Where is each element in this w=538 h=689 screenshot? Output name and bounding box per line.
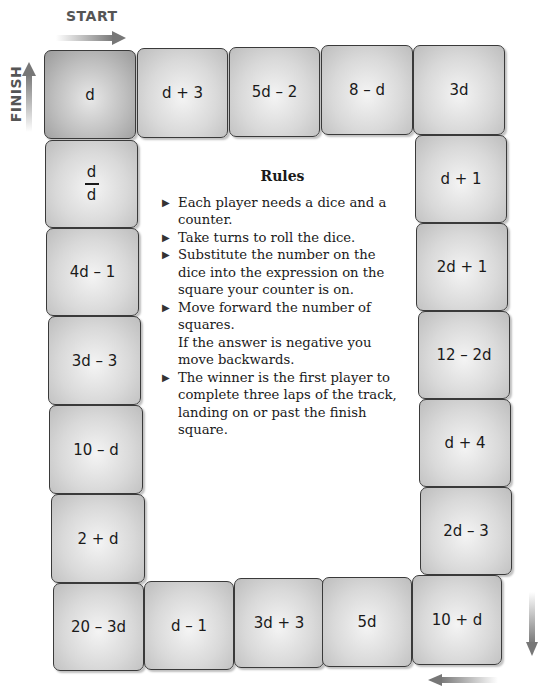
track-square: 8 – d <box>321 45 413 135</box>
square-expression: d <box>85 86 95 104</box>
square-expression: 12 – 2d <box>436 346 491 364</box>
square-expression: d – 1 <box>171 617 207 635</box>
square-expression: 10 + d <box>432 611 483 629</box>
track-square: 4d – 1 <box>46 228 139 316</box>
rule-text: Each player needs a dice and a counter. <box>178 195 386 228</box>
rules-title: Rules <box>160 168 405 186</box>
track-square: 20 – 3d <box>53 583 144 671</box>
square-expression: d + 4 <box>444 434 485 452</box>
fraction-denominator: d <box>87 188 97 203</box>
track-square: 10 + d <box>412 575 502 665</box>
start-label: START <box>66 8 118 24</box>
square-expression: 3d <box>449 81 468 99</box>
track-square: d + 1 <box>415 135 507 223</box>
track-square: d – 1 <box>144 581 234 670</box>
rules-panel: Rules ▶Each player needs a dice and a co… <box>160 168 405 439</box>
down-arrow-icon <box>526 592 538 656</box>
track-square: d + 3 <box>137 48 228 138</box>
bullet-icon: ▶ <box>162 194 170 212</box>
square-expression: d + 3 <box>162 84 203 102</box>
rule-item: ▶Substitute the number on the dice into … <box>160 246 405 299</box>
rule-item: ▶Move forward the number of squares. <box>160 299 405 334</box>
square-expression: 2d + 1 <box>437 258 488 276</box>
rule-item: ▶Take turns to roll the dice. <box>160 229 405 247</box>
finish-arrow-icon <box>22 62 36 132</box>
track-square: 2d + 1 <box>416 223 508 311</box>
track-square: 2d – 3 <box>420 487 512 575</box>
square-expression: 3d – 3 <box>72 352 118 370</box>
track-square: 5d <box>322 577 412 667</box>
bullet-icon: ▶ <box>162 299 170 317</box>
rule-text: Substitute the number on the dice into t… <box>178 247 384 297</box>
track-square: 12 – 2d <box>418 311 510 399</box>
square-expression: 2 + d <box>77 530 118 548</box>
track-square: d + 4 <box>419 399 511 487</box>
track-square: 10 – d <box>49 405 143 494</box>
track-square: 5d – 2 <box>229 47 320 137</box>
rule-text: The winner is the first player to comple… <box>178 370 397 438</box>
track-square-finish: d <box>44 50 136 139</box>
rule-item: ▶Each player needs a dice and a counter. <box>160 194 405 229</box>
rules-list: ▶Each player needs a dice and a counter.… <box>160 194 405 439</box>
fraction-numerator: d <box>87 165 97 180</box>
left-arrow-icon <box>428 674 498 686</box>
fraction-expression: d d <box>85 165 99 202</box>
rule-text: Take turns to roll the dice. <box>178 230 355 245</box>
square-expression: 2d – 3 <box>443 522 489 540</box>
track-square: d d <box>45 140 138 228</box>
bullet-icon: ▶ <box>162 246 170 264</box>
rule-note: If the answer is negative you move backw… <box>160 334 405 369</box>
square-expression: 10 – d <box>73 441 119 459</box>
bullet-icon: ▶ <box>162 229 170 247</box>
fraction-bar <box>85 183 99 184</box>
square-expression: 3d + 3 <box>254 614 305 632</box>
track-square: 3d + 3 <box>234 578 324 668</box>
square-expression: d + 1 <box>440 170 481 188</box>
square-expression: 8 – d <box>349 81 385 99</box>
square-expression: 20 – 3d <box>71 618 126 636</box>
square-expression: 5d <box>357 613 376 631</box>
track-square: 2 + d <box>51 494 145 583</box>
square-expression: 5d – 2 <box>252 83 298 101</box>
bullet-icon: ▶ <box>162 369 170 387</box>
square-expression: 4d – 1 <box>70 263 116 281</box>
start-arrow-icon <box>56 31 126 45</box>
rule-item: ▶The winner is the first player to compl… <box>160 369 405 439</box>
track-square: 3d <box>413 45 505 135</box>
track-square: 3d – 3 <box>48 316 141 405</box>
rule-text: Move forward the number of squares. <box>178 300 371 333</box>
